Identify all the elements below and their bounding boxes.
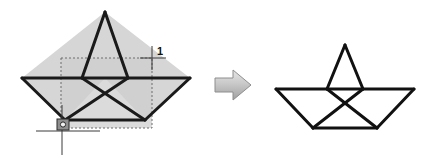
transform-arrow-icon (215, 70, 251, 100)
left-figure-group[interactable] (22, 12, 190, 155)
base-point-handle-icon[interactable] (57, 119, 69, 130)
diagram-canvas: 1 (0, 0, 431, 159)
right-figure-group[interactable] (276, 45, 414, 128)
result-edge-cross-b (313, 89, 363, 128)
arrow-right-shape (215, 70, 251, 100)
result-edge-peak-left (327, 45, 345, 89)
point-label-1: 1 (157, 46, 163, 57)
diagram-svg (0, 0, 431, 159)
base-point-handle-dot (60, 122, 65, 127)
result-edge-cross-a (327, 89, 377, 128)
right-polygon-edges (276, 45, 414, 128)
result-edge-right-diagonal (377, 89, 414, 128)
result-edge-peak-right (345, 45, 363, 89)
result-edge-left-diagonal (276, 89, 313, 128)
